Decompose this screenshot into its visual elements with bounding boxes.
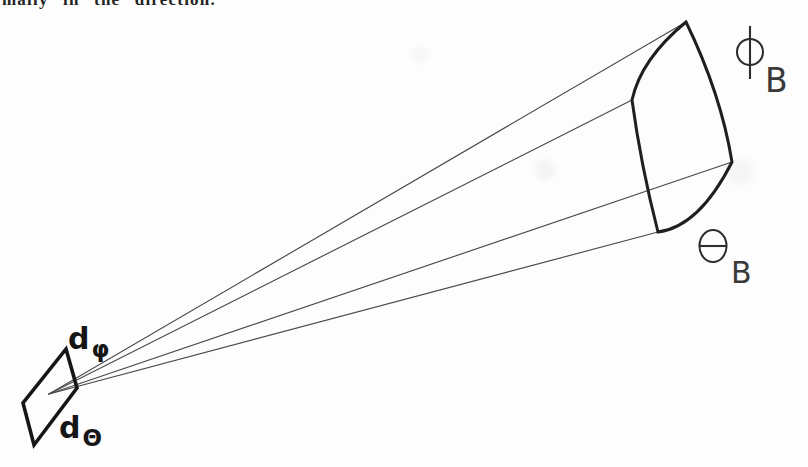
d-theta-symbol: d: [59, 410, 80, 445]
d-phi-symbol: d: [68, 321, 89, 356]
rays-group: [49, 22, 732, 394]
d-theta-subscript: Θ: [82, 425, 102, 451]
d-phi-subscript: φ: [91, 336, 109, 362]
phi-uppercase-symbol: [737, 26, 763, 79]
label-d-theta: dΘ: [59, 413, 100, 443]
scanned-book-page: mally in the direction. B B dφ: [0, 0, 808, 467]
label-d-phi: dφ: [68, 324, 107, 354]
beam-patch-outline: [632, 22, 732, 232]
ray-to-bottom-corner: [49, 232, 658, 394]
theta-uppercase-symbol: [699, 230, 727, 262]
ray-to-right-corner: [49, 162, 732, 394]
theta-B-subscript: B: [731, 258, 752, 288]
beam-solid-angle-diagram: [0, 0, 808, 467]
phi-B-subscript: B: [765, 64, 788, 97]
ray-to-apex-corner: [49, 22, 686, 394]
ray-to-left-corner: [49, 100, 632, 394]
